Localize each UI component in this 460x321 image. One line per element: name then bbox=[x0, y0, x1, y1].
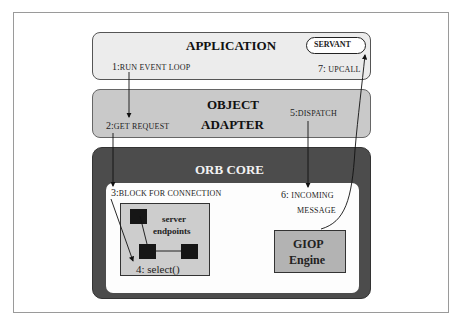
step-7-text: UPCALL bbox=[328, 65, 360, 74]
step-6-text: INCOMING bbox=[291, 191, 334, 200]
step-3-label: 3:BLOCK FOR CONNECTION bbox=[111, 188, 221, 198]
giop-label-line1: GIOP bbox=[293, 238, 324, 250]
step-2-text: GET REQUEST bbox=[114, 122, 170, 131]
endpoints-label-line2: endpoints bbox=[153, 227, 191, 236]
step-2-label: 2:GET REQUEST bbox=[106, 121, 169, 131]
servant-label: SERVANT bbox=[314, 41, 351, 49]
adapter-title-line2: ADAPTER bbox=[201, 118, 264, 131]
step-3-number: 3: bbox=[111, 187, 119, 198]
step-6-label: 6: INCOMING bbox=[281, 190, 334, 200]
step-5-number: 5: bbox=[290, 107, 298, 118]
step-6-text-line2: MESSAGE bbox=[297, 206, 336, 215]
endpoints-label-line1: server bbox=[162, 215, 186, 224]
step-6-label-line2: MESSAGE bbox=[297, 205, 336, 215]
step-6-number: 6: bbox=[281, 189, 289, 200]
step-3-text: BLOCK FOR CONNECTION bbox=[119, 189, 222, 198]
step-7-label: 7: UPCALL bbox=[318, 64, 361, 74]
step-1-number: 1: bbox=[112, 61, 120, 72]
endpoint-square-top bbox=[130, 209, 147, 224]
step-1-label: 1:RUN EVENT LOOP bbox=[112, 62, 190, 72]
endpoint-square-left bbox=[139, 244, 156, 259]
select-call-label: 4: select() bbox=[136, 264, 180, 275]
adapter-title-line1: OBJECT bbox=[207, 98, 259, 111]
step-5-text: DISPATCH bbox=[298, 109, 337, 118]
endpoint-square-right bbox=[181, 244, 198, 259]
step-2-number: 2: bbox=[106, 120, 114, 131]
giop-label-line2: Engine bbox=[289, 254, 325, 266]
step-1-text: RUN EVENT LOOP bbox=[120, 63, 191, 72]
application-title: APPLICATION bbox=[186, 39, 276, 52]
orb-core-title: ORB CORE bbox=[195, 163, 264, 176]
step-5-label: 5:DISPATCH bbox=[290, 108, 337, 118]
step-7-number: 7: bbox=[318, 63, 326, 74]
